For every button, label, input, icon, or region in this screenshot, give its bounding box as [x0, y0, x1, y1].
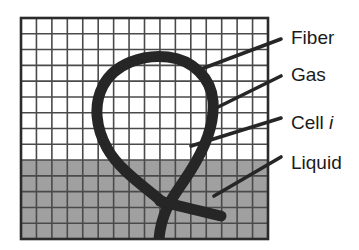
label-fiber: Fiber [291, 27, 335, 48]
figure-svg: Fiber Gas Cell i Liquid [0, 0, 359, 250]
figure-container: Fiber Gas Cell i Liquid [0, 0, 359, 250]
label-cell-base: Cell [291, 112, 329, 133]
label-cell-i: Cell i [291, 112, 334, 133]
label-liquid: Liquid [291, 152, 342, 173]
label-gas: Gas [291, 64, 326, 85]
label-cell-index: i [329, 112, 334, 133]
